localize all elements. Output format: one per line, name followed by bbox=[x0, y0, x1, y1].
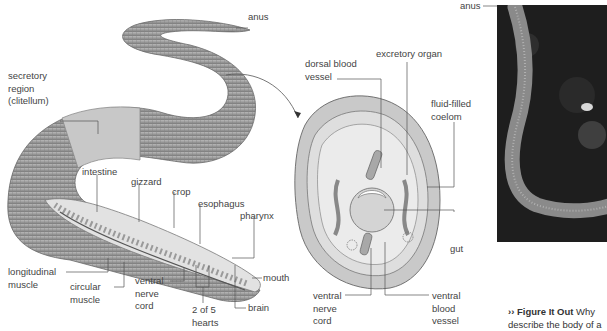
label-anus: anus bbox=[248, 11, 269, 24]
caption-prefix: ›› Figure It Out bbox=[508, 306, 573, 317]
cross-section bbox=[295, 96, 440, 289]
label-ventral-blood-vessel: ventral blood vessel bbox=[432, 290, 461, 328]
label-mouth: mouth bbox=[263, 272, 289, 285]
label-intestine: intestine bbox=[82, 166, 117, 179]
label-coelom: fluid-filled coelom bbox=[431, 98, 471, 123]
label-brain: brain bbox=[248, 302, 269, 315]
label-hearts: 2 of 5 hearts bbox=[192, 304, 218, 329]
figure-it-out-caption: ›› Figure It Out Why describe the body o… bbox=[508, 305, 601, 331]
label-ventral-nerve-cord-section: ventral nerve cord bbox=[313, 290, 342, 328]
label-longitudinal-muscle: longitudinal muscle bbox=[8, 266, 56, 291]
label-photo-anus: anus bbox=[460, 0, 481, 13]
earthworm-photo bbox=[497, 5, 607, 242]
label-gizzard: gizzard bbox=[131, 176, 162, 189]
label-clitellum: secretory region (clitellum) bbox=[8, 70, 49, 108]
label-crop: crop bbox=[172, 186, 190, 199]
arrow-head-icon bbox=[294, 111, 301, 118]
label-gut: gut bbox=[450, 243, 463, 256]
label-pharynx: pharynx bbox=[240, 210, 274, 223]
label-circular-muscle: circular muscle bbox=[70, 281, 101, 306]
whole-worm bbox=[8, 20, 261, 302]
caption-line1: Why bbox=[576, 306, 595, 317]
label-dorsal-blood-vessel: dorsal blood vessel bbox=[305, 58, 357, 83]
label-esophagus: esophagus bbox=[198, 198, 244, 211]
label-ventral-nerve-cord: ventral nerve cord bbox=[135, 275, 164, 313]
label-excretory-organ: excretory organ bbox=[376, 48, 442, 61]
caption-line2: describe the body of a bbox=[508, 319, 601, 330]
